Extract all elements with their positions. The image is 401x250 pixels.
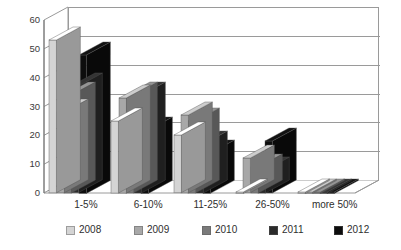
legend-swatch [269, 226, 278, 235]
bar-3d [174, 122, 205, 195]
legend-item: 2008 [66, 225, 101, 235]
x-tick-label: 6-10% [118, 199, 178, 210]
bar [298, 192, 305, 194]
legend-swatch [334, 226, 343, 235]
x-axis: 1-5%6-10%11-25%26-50%more 50% [44, 199, 380, 215]
legend-label: 2010 [215, 225, 237, 235]
x-tick-label: more 50% [305, 199, 365, 210]
legend-label: 2012 [347, 225, 369, 235]
legend-label: 2008 [79, 225, 101, 235]
legend-item: 2011 [269, 225, 304, 235]
x-tick-label: 1-5% [56, 199, 116, 210]
legend-item: 2009 [134, 225, 169, 235]
x-tick-label: 11-25% [180, 199, 240, 210]
bar [49, 40, 56, 193]
legend-label: 2009 [147, 225, 169, 235]
chart-legend: 20082009201020112012 [44, 223, 364, 241]
bar [236, 192, 243, 194]
legend-swatch [202, 226, 211, 235]
bar [174, 135, 181, 193]
bar-3d [236, 179, 267, 196]
chart-container: 60 50 40 30 20 10 0 1-5%6-10%11-25%26-50… [0, 0, 401, 250]
plot-area: 60 50 40 30 20 10 0 1-5%6-10%11-25%26-50… [0, 0, 401, 250]
legend-swatch [66, 226, 75, 235]
legend-item: 2010 [202, 225, 237, 235]
bar-3d [49, 27, 80, 195]
legend-label: 2011 [282, 225, 304, 235]
bar [111, 121, 118, 193]
x-tick-label: 26-50% [243, 199, 303, 210]
legend-item: 2012 [334, 225, 369, 235]
bar-3d [111, 108, 142, 195]
bar-3d [298, 179, 329, 196]
legend-swatch [134, 226, 143, 235]
